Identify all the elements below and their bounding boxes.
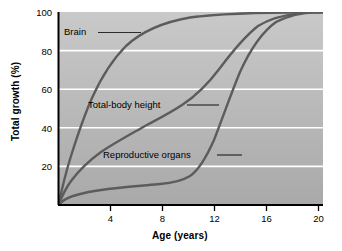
x-tick-label-8: 8 [151, 213, 175, 224]
series-label-brain: Brain [64, 26, 86, 37]
x-axis-title: Age (years) [152, 230, 208, 241]
growth-curve-figure: 100 80 60 40 20 4 8 12 16 20 Total growt… [0, 0, 342, 251]
y-tick-label-40: 40 [26, 123, 52, 134]
x-tick-label-16: 16 [255, 213, 279, 224]
y-tick-label-60: 60 [26, 84, 52, 95]
x-tick-label-20: 20 [307, 213, 331, 224]
y-axis-title: Total growth (%) [10, 42, 21, 162]
series-label-total-body-height: Total-body height [88, 99, 160, 110]
x-tick-label-4: 4 [99, 213, 123, 224]
y-tick-label-80: 80 [26, 46, 52, 57]
y-tick-label-20: 20 [26, 161, 52, 172]
x-tick-label-12: 12 [203, 213, 227, 224]
y-tick-label-100: 100 [26, 7, 52, 18]
series-label-reproductive-organs: Reproductive organs [103, 149, 191, 160]
